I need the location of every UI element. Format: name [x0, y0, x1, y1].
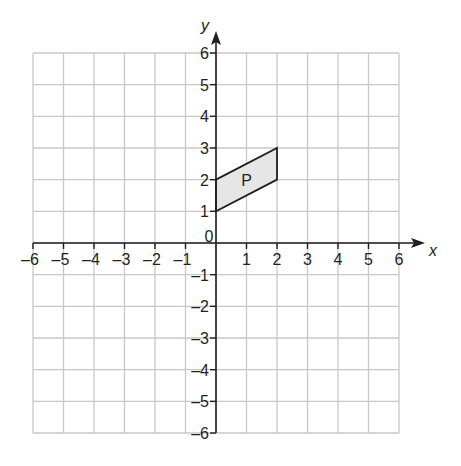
- x-tick-label: 5: [364, 251, 373, 268]
- y-tick-label: –4: [191, 362, 209, 379]
- y-tick-label: –3: [191, 330, 209, 347]
- x-tick-label: 4: [334, 251, 343, 268]
- x-tick-label: 2: [273, 251, 282, 268]
- y-tick-label: –1: [191, 267, 209, 284]
- y-tick-label: 6: [200, 45, 209, 62]
- tick-labels: x–6–5–4–3–2–11234560y–6–5–4–3–2–1123456: [21, 17, 438, 442]
- x-tick-label: 3: [303, 251, 312, 268]
- x-tick-label: –1: [174, 251, 192, 268]
- x-tick-label: –6: [21, 251, 39, 268]
- x-tick-label: –3: [113, 251, 131, 268]
- y-tick-label: –2: [191, 298, 209, 315]
- y-tick-label: –6: [191, 425, 209, 442]
- y-tick-label: –5: [191, 393, 209, 410]
- coordinate-plane: P x–6–5–4–3–2–11234560y–6–5–4–3–2–112345…: [0, 0, 461, 466]
- y-tick-label: 3: [200, 140, 209, 157]
- origin-label: 0: [205, 228, 214, 245]
- y-tick-label: 1: [200, 203, 209, 220]
- shape-label: P: [241, 172, 252, 189]
- y-axis-label: y: [200, 17, 210, 34]
- y-tick-label: 2: [200, 172, 209, 189]
- x-tick-label: 6: [395, 251, 404, 268]
- y-tick-label: 5: [200, 77, 209, 94]
- axes: [33, 31, 425, 433]
- x-tick-label: –4: [82, 251, 100, 268]
- x-tick-label: 1: [242, 251, 251, 268]
- x-tick-label: –5: [52, 251, 70, 268]
- y-tick-label: 4: [200, 108, 209, 125]
- x-axis-label: x: [428, 242, 438, 259]
- x-tick-label: –2: [143, 251, 161, 268]
